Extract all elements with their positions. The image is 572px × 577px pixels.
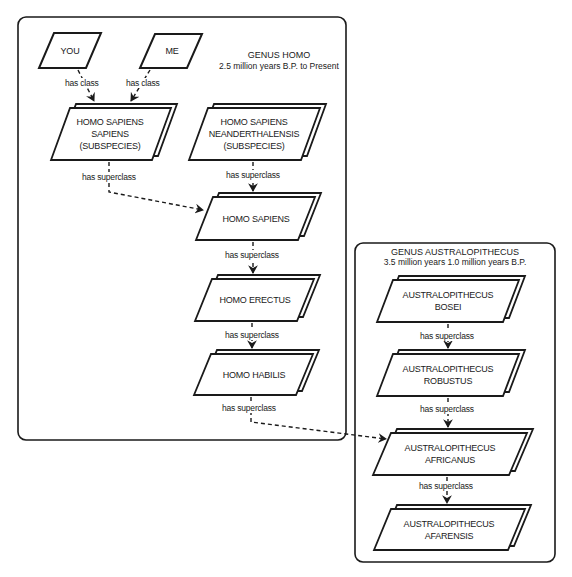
node-label-line: BOSEI (435, 301, 462, 313)
node-homo-sapiens-sapiens: HOMO SAPIENS SAPIENS (SUBSPECIES) (60, 108, 160, 160)
node-homo-sapiens-neanderthalensis: HOMO SAPIENS NEANDERTHALENSIS (SUBSPECIE… (198, 108, 310, 160)
node-label-line: (SUBSPECIES) (79, 140, 140, 152)
node-label-line: AUSTRALOPITHECUS (403, 363, 494, 375)
genus-homo-subtitle: 2.5 million years B.P. to Present (204, 61, 354, 72)
node-homo-sapiens: HOMO SAPIENS (204, 197, 308, 240)
node-me: ME (146, 34, 198, 68)
node-label-line: AFRICANUS (425, 454, 475, 466)
node-label-line: (SUBSPECIES) (223, 140, 284, 152)
node-label-line: ROBUSTUS (424, 375, 472, 387)
node-label-line: HOMO SAPIENS (222, 213, 289, 225)
edge-label-me-to-hss: has class (125, 78, 161, 88)
node-you: YOU (44, 33, 96, 68)
node-label-line: AUSTRALOPITHECUS (404, 518, 495, 530)
node-you-label: YOU (61, 45, 80, 57)
node-homo-habilis: HOMO HABILIS (202, 354, 306, 395)
node-label-line: AUSTRALOPITHECUS (405, 442, 496, 454)
node-australopithecus-africanus: AUSTRALOPITHECUS AFRICANUS (382, 433, 518, 475)
genus-australopithecus-subtitle: 3.5 million years 1.0 million years B.P. (370, 257, 540, 268)
edge-label-hss-to-hs: has superclass (81, 172, 137, 182)
edge-label-hsn-to-hs: has superclass (225, 170, 281, 180)
node-label-line: NEANDERTHALENSIS (209, 128, 300, 140)
node-label-line: HOMO SAPIENS (220, 116, 287, 128)
node-homo-erectus: HOMO ERECTUS (203, 279, 307, 321)
node-label-line: HOMO HABILIS (223, 369, 286, 381)
edge-label-he-to-hh: has superclass (224, 330, 280, 340)
node-label-line: HOMO SAPIENS (76, 116, 143, 128)
edge-label-bos-to-rob: has superclass (419, 331, 475, 341)
node-australopithecus-afarensis: AUSTRALOPITHECUS AFARENSIS (382, 509, 516, 550)
edge-label-hh-to-afr: has superclass (221, 403, 277, 413)
edge-label-afr-to-afa: has superclass (418, 481, 474, 491)
node-me-label: ME (165, 45, 178, 57)
edge-hss-to-hs (109, 162, 203, 210)
genus-homo-title: GENUS HOMO (214, 50, 344, 61)
node-label-line: AUSTRALOPITHECUS (403, 289, 494, 301)
node-australopithecus-bosei: AUSTRALOPITHECUS BOSEI (385, 280, 511, 322)
edge-label-you-to-hss: has class (64, 78, 100, 88)
node-label-line: SAPIENS (91, 128, 129, 140)
node-label-line: AFARENSIS (425, 530, 474, 542)
node-label-line: HOMO ERECTUS (219, 294, 290, 306)
edge-label-hs-to-he: has superclass (224, 250, 280, 260)
edge-label-rob-to-afr: has superclass (419, 404, 475, 414)
node-australopithecus-robustus: AUSTRALOPITHECUS ROBUSTUS (385, 354, 511, 396)
